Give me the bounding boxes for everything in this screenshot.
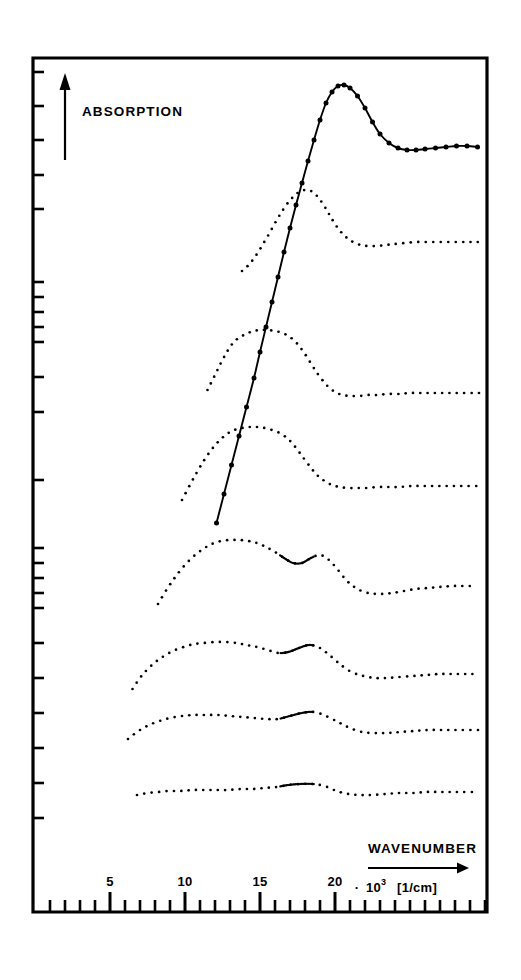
data-point-dot <box>259 247 262 250</box>
data-point-dot <box>327 558 330 561</box>
data-point-dot <box>127 738 130 741</box>
data-point-dot <box>441 791 444 794</box>
data-point-dot <box>333 789 336 792</box>
data-point-dot <box>161 596 164 599</box>
data-point-dot <box>397 393 400 396</box>
data-point-dot <box>226 641 229 644</box>
data-point-dot <box>322 479 325 482</box>
data-point-marker <box>330 90 335 95</box>
data-point-marker <box>318 118 323 123</box>
data-point-dot <box>342 665 345 668</box>
data-point-dot <box>345 394 348 397</box>
plot-frame <box>33 58 487 912</box>
data-point-dot <box>336 661 339 664</box>
data-point-dot <box>315 194 318 197</box>
data-point-dot <box>372 486 375 489</box>
data-point-dot <box>136 794 139 797</box>
data-point-dot <box>296 342 299 345</box>
data-point-dot <box>439 586 442 589</box>
data-point-dot <box>339 722 342 725</box>
data-point-dot <box>404 730 407 733</box>
data-point-dot <box>394 243 397 246</box>
data-point-dot <box>291 197 294 200</box>
data-point-dot <box>139 729 142 732</box>
data-point-dot <box>391 676 394 679</box>
data-point-dot <box>366 592 369 595</box>
data-point-dot <box>419 392 422 395</box>
data-point-dot <box>261 717 264 720</box>
data-point-dot <box>254 717 257 720</box>
data-point-dot <box>358 243 361 246</box>
data-point-dot <box>203 714 206 717</box>
data-point-dot <box>188 714 191 717</box>
data-point-dot <box>276 652 279 655</box>
data-point-dot <box>396 731 399 734</box>
data-point-dot <box>173 577 176 580</box>
data-point-dot <box>354 793 357 796</box>
data-point-dot <box>332 389 335 392</box>
data-point-dot <box>238 788 241 791</box>
data-point-dot <box>375 394 378 397</box>
data-point-dot <box>387 243 390 246</box>
data-point-dot <box>454 241 457 244</box>
data-point-dot <box>435 673 438 676</box>
data-point-dot <box>255 541 258 544</box>
data-point-dot <box>404 392 407 395</box>
data-point-dot <box>325 651 328 654</box>
data-point-dot <box>230 343 233 346</box>
data-point-dot <box>434 791 437 794</box>
data-point-dot <box>175 648 178 651</box>
x-axis-label: WAVENUMBER <box>368 841 477 856</box>
data-point-dot <box>382 732 385 735</box>
data-point-dot <box>313 783 315 785</box>
data-point-dot <box>255 329 258 332</box>
data-point-dot <box>224 789 227 792</box>
data-point-dot <box>182 565 185 568</box>
absorption-spectrum-chart: ABSORPTION WAVENUMBER 5101520 · 10 3 [1/… <box>0 0 521 980</box>
data-point-dot <box>381 593 384 596</box>
data-point-dot <box>461 585 464 588</box>
data-point-dot <box>294 445 297 448</box>
spectrum-curve <box>241 189 479 273</box>
data-point-dot <box>263 329 266 332</box>
data-point-dot <box>224 714 227 717</box>
data-point-dot <box>239 716 242 719</box>
data-point-dot <box>233 539 236 542</box>
data-point-dot <box>219 641 222 644</box>
data-point-dot <box>189 644 192 647</box>
data-point-dot <box>448 791 451 794</box>
data-point-marker <box>423 147 428 152</box>
x-axis-tick-label: 10 <box>177 874 192 889</box>
data-point-dot <box>425 729 428 732</box>
data-point-dot <box>384 677 387 680</box>
data-point-dot <box>342 576 345 579</box>
data-point-marker <box>454 144 459 149</box>
data-point-dot <box>461 729 464 732</box>
data-point-dot <box>253 788 256 791</box>
data-point-dot <box>227 431 230 434</box>
data-point-dot <box>196 642 199 645</box>
data-point-dot <box>467 485 470 488</box>
data-point-dot <box>326 786 329 789</box>
data-point-dot <box>193 554 196 557</box>
data-point-dot <box>145 670 148 673</box>
data-point-dot <box>282 208 285 211</box>
data-point-dot <box>478 392 481 395</box>
data-point-dot <box>212 447 215 450</box>
data-point-dot <box>199 550 202 553</box>
data-point-dot <box>289 440 292 443</box>
data-point-dot <box>312 556 314 558</box>
data-point-dot <box>290 337 293 340</box>
data-point-dot <box>359 589 362 592</box>
data-point-dot <box>416 485 419 488</box>
data-point-dot <box>470 392 473 395</box>
data-point-marker <box>465 144 470 149</box>
data-point-dot <box>335 225 338 228</box>
data-point-dot <box>423 485 426 488</box>
data-point-dot <box>262 647 265 650</box>
y-axis-label: ABSORPTION <box>82 104 183 119</box>
data-point-dot <box>150 664 153 667</box>
data-point-dot <box>353 585 356 588</box>
data-point-dot <box>453 485 456 488</box>
data-point-dot <box>454 729 457 732</box>
